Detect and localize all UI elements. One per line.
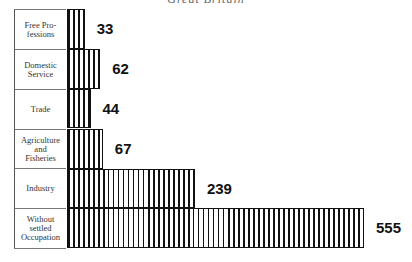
label-column-bottom-rule <box>14 248 66 249</box>
bar <box>67 49 100 89</box>
bar <box>67 129 103 169</box>
value-label: 67 <box>115 140 132 157</box>
value-label: 62 <box>112 60 129 77</box>
chart-title: Great Britain <box>0 0 412 7</box>
category-label: Trade <box>14 89 66 129</box>
bar <box>67 169 195 208</box>
category-label: Industry <box>14 168 66 208</box>
bar <box>67 208 364 248</box>
category-label: Domestic Service <box>14 49 66 89</box>
value-label: 555 <box>376 219 401 236</box>
category-label: Agriculture and Fisheries <box>14 129 66 168</box>
category-label: Free Pro- fessions <box>14 9 66 49</box>
value-label: 239 <box>207 180 232 197</box>
value-label: 33 <box>97 20 114 37</box>
bar <box>67 9 85 49</box>
category-label: Without settled Occupation <box>14 208 66 248</box>
value-label: 44 <box>103 100 120 117</box>
bar <box>67 89 91 128</box>
